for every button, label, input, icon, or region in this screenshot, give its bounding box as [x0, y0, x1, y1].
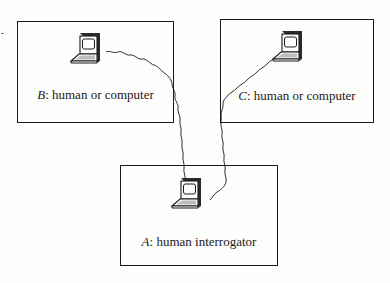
node-separator-c: :	[247, 88, 254, 103]
node-label-a: A: human interrogator	[121, 234, 277, 250]
stray-print-mark	[1, 33, 4, 34]
node-letter-b: B	[37, 87, 45, 102]
node-description-a: human interrogator	[156, 234, 256, 249]
node-description-b: human or computer	[52, 87, 154, 102]
node-letter-c: C	[238, 88, 247, 103]
node-separator-b: :	[45, 87, 52, 102]
node-label-c: C: human or computer	[221, 88, 373, 104]
node-label-b: B: human or computer	[18, 87, 173, 103]
computer-terminal-icon	[69, 31, 109, 69]
computer-terminal-icon	[271, 29, 311, 67]
computer-terminal-icon	[170, 176, 210, 214]
node-letter-a: A	[142, 234, 150, 249]
node-description-c: human or computer	[254, 88, 356, 103]
